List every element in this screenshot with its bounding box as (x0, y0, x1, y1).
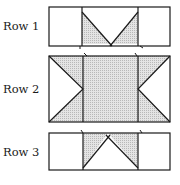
quilt-diagram (0, 0, 180, 185)
row-3-block (49, 133, 170, 170)
row-1-block (49, 7, 170, 46)
row-2-block (49, 56, 170, 122)
